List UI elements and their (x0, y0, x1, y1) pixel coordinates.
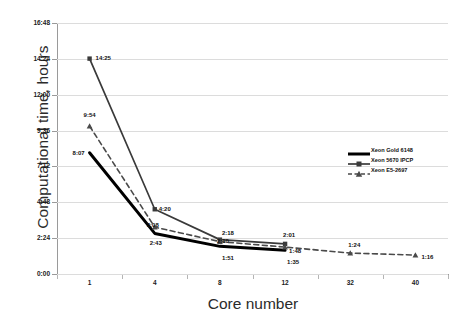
series-marker-triangle (87, 123, 93, 128)
series-line (90, 59, 286, 244)
x-tick-label: 8 (200, 279, 240, 286)
data-point-label: 8:07 (73, 150, 85, 156)
legend-item-label: Xeon E5-2697 (370, 167, 407, 173)
data-point-label: 1:24 (348, 242, 360, 248)
legend-item: Xeon 5670 IPCP (348, 155, 448, 165)
data-point-label: 1:51 (222, 255, 234, 261)
x-tick-mark (318, 275, 319, 279)
data-point-label: 14:25 (96, 55, 111, 61)
legend-item: Xeon E5-2697 (348, 165, 448, 175)
data-point-label: 2:10 (217, 238, 229, 244)
legend-key-icon (348, 145, 370, 155)
chart-legend: Xeon Gold 6148Xeon 5670 IPCPXeon E5-2697 (348, 145, 448, 175)
data-point-label: 2:18 (222, 230, 234, 236)
legend-key-icon (348, 155, 370, 165)
y-tick-label: 2:24 (2, 234, 50, 241)
legend-item-label: Xeon 5670 IPCP (370, 157, 413, 163)
data-point-label: 1:16 (421, 254, 433, 260)
y-axis-title: Computational time, hours (34, 17, 52, 257)
x-tick-label: 32 (330, 279, 370, 286)
x-tick-mark (57, 275, 58, 279)
x-tick-mark (448, 275, 449, 279)
data-point-label: 2:43 (150, 240, 162, 246)
data-point-label: 3:08 (147, 222, 159, 228)
data-point-label: 1:35 (287, 259, 299, 265)
x-tick-mark (122, 275, 123, 279)
legend-item: Xeon Gold 6148 (348, 145, 448, 155)
y-tick-label: 14:24 (2, 55, 50, 62)
data-point-label: 4:20 (159, 206, 171, 212)
data-point-label: 1:48 (289, 248, 301, 254)
x-tick-mark (383, 275, 384, 279)
x-tick-mark (187, 275, 188, 279)
series-marker-square (87, 56, 91, 60)
series-marker-square (153, 207, 157, 211)
x-axis-title: Core number (56, 295, 450, 313)
x-tick-label: 1 (70, 279, 110, 286)
y-tick-label: 7:12 (2, 162, 50, 169)
x-tick-label: 4 (135, 279, 175, 286)
data-point-label: 2:01 (283, 232, 295, 238)
y-tick-label: 12:00 (2, 91, 50, 98)
x-tick-label: 40 (395, 279, 435, 286)
y-tick-label: 16:48 (2, 19, 50, 26)
series-marker-triangle (413, 252, 419, 257)
data-point-label: 9:54 (84, 112, 96, 118)
legend-key-icon (348, 165, 370, 175)
chart-container: Computational time, hours Core number 0:… (0, 0, 470, 331)
x-tick-label: 12 (265, 279, 305, 286)
y-tick-label: 0:00 (2, 270, 50, 277)
x-tick-mark (253, 275, 254, 279)
y-tick-label: 9:36 (2, 127, 50, 134)
series-line (90, 153, 286, 251)
legend-item-label: Xeon Gold 6148 (370, 147, 413, 153)
y-tick-label: 4:48 (2, 198, 50, 205)
